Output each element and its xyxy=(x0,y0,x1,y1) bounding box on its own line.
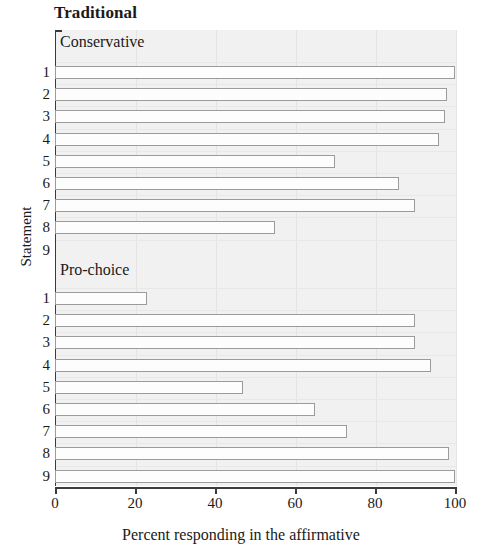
bar xyxy=(55,403,315,416)
x-axis-line xyxy=(55,487,455,489)
bar xyxy=(55,155,335,168)
bar xyxy=(55,425,347,438)
y-tick-label: 1 xyxy=(24,291,50,306)
row-separator xyxy=(56,62,456,63)
x-tick-label: 100 xyxy=(435,496,475,511)
row-separator xyxy=(56,421,456,422)
gridline xyxy=(456,256,457,486)
y-tick-label: 6 xyxy=(24,402,50,417)
row-separator xyxy=(56,355,456,356)
x-tick-mark xyxy=(215,487,217,494)
y-tick-label: 3 xyxy=(24,109,50,124)
x-tick-mark xyxy=(375,487,377,494)
y-tick-label: 8 xyxy=(24,220,50,235)
bar xyxy=(55,133,439,146)
y-tick-label: 2 xyxy=(24,313,50,328)
bar xyxy=(55,381,243,394)
panel-corner-tick xyxy=(55,30,62,32)
row-separator xyxy=(56,84,456,85)
y-tick-label: 7 xyxy=(24,424,50,439)
bar xyxy=(55,244,57,257)
bar xyxy=(55,336,415,349)
x-axis-label: Percent responding in the affirmative xyxy=(0,526,482,544)
bar xyxy=(55,314,415,327)
bar xyxy=(55,447,449,460)
x-tick-mark xyxy=(455,487,457,494)
bar xyxy=(55,359,431,372)
y-tick-label: 9 xyxy=(24,469,50,484)
row-separator xyxy=(56,310,456,311)
x-tick-mark xyxy=(135,487,137,494)
panel-label-conservative: Conservative xyxy=(60,34,144,50)
gridline xyxy=(456,30,457,256)
y-tick-label: 9 xyxy=(24,243,50,258)
panel-label-prochoice: Pro-choice xyxy=(60,262,129,278)
bar xyxy=(55,292,147,305)
y-tick-label: 6 xyxy=(24,176,50,191)
bar xyxy=(55,110,445,123)
bar xyxy=(55,199,415,212)
row-separator xyxy=(56,173,456,174)
row-separator xyxy=(56,288,456,289)
row-separator xyxy=(56,399,456,400)
y-tick-label: 4 xyxy=(24,132,50,147)
row-separator xyxy=(56,151,456,152)
x-tick-label: 40 xyxy=(195,496,235,511)
x-tick-label: 20 xyxy=(115,496,155,511)
x-tick-label: 0 xyxy=(35,496,75,511)
bar xyxy=(55,221,275,234)
x-tick-label: 60 xyxy=(275,496,315,511)
row-separator xyxy=(56,377,456,378)
row-separator xyxy=(56,217,456,218)
y-tick-label: 7 xyxy=(24,198,50,213)
row-separator xyxy=(56,332,456,333)
y-tick-label: 8 xyxy=(24,446,50,461)
row-separator xyxy=(56,466,456,467)
row-separator xyxy=(56,240,456,241)
x-tick-mark xyxy=(55,487,57,494)
chart-title: Traditional xyxy=(54,3,137,23)
y-axis-label: Statement xyxy=(18,177,35,297)
bar xyxy=(55,88,447,101)
y-tick-label: 2 xyxy=(24,87,50,102)
bar xyxy=(55,470,455,483)
bar-chart: Traditional Statement Conservative Pro-c… xyxy=(0,0,482,558)
row-separator xyxy=(56,195,456,196)
y-tick-label: 1 xyxy=(24,65,50,80)
row-separator xyxy=(56,443,456,444)
y-tick-label: 5 xyxy=(24,380,50,395)
y-tick-label: 5 xyxy=(24,154,50,169)
bar xyxy=(55,66,455,79)
y-tick-label: 4 xyxy=(24,358,50,373)
x-tick-mark xyxy=(295,487,297,494)
y-tick-label: 3 xyxy=(24,335,50,350)
row-separator xyxy=(56,129,456,130)
x-tick-label: 80 xyxy=(355,496,395,511)
bar xyxy=(55,177,399,190)
row-separator xyxy=(56,106,456,107)
